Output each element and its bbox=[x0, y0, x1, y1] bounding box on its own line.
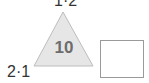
top-vertex-label: 1·2 bbox=[54, 0, 77, 9]
left-vertex-label: 2·1 bbox=[7, 64, 30, 80]
answer-box[interactable] bbox=[100, 40, 144, 78]
center-value: 10 bbox=[48, 39, 80, 56]
